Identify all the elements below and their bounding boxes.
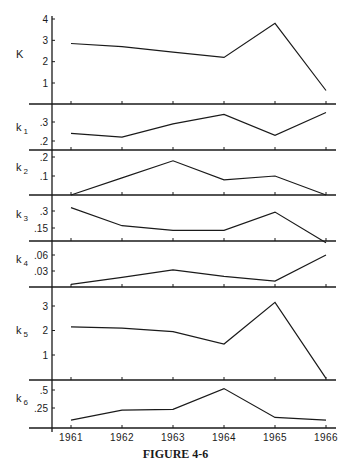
panel-K: 1234K	[16, 14, 336, 105]
x-tick-label: 1961	[59, 432, 83, 443]
y-tick-label: 4	[42, 14, 48, 25]
y-tick-label: 3	[42, 301, 48, 312]
panel-k2: .1.2k2	[16, 152, 336, 196]
y-tick-label: 1	[42, 350, 48, 361]
series-line-k1	[71, 113, 326, 138]
y-tick-label: 2	[42, 56, 48, 67]
y-tick-label: .2	[40, 152, 49, 163]
figure-caption: FIGURE 4-6	[0, 447, 351, 462]
panel-label: k5	[16, 324, 29, 339]
x-tick-label: 1966	[314, 432, 338, 443]
x-tick-label: 1962	[110, 432, 134, 443]
y-tick-label: .15	[34, 223, 48, 234]
panel-k1: .2.3k1	[16, 113, 336, 151]
panel-k3: .15.3k3	[16, 206, 336, 243]
series-line-K	[71, 23, 326, 90]
panel-label: k2	[16, 161, 29, 176]
panel-k4: .03.06k4	[16, 250, 336, 288]
panel-label: k6	[16, 392, 29, 407]
y-tick-label: .1	[40, 171, 49, 182]
series-line-k4	[71, 255, 326, 284]
y-tick-label: 1	[42, 78, 48, 89]
y-tick-label: .06	[34, 250, 48, 261]
series-line-k2	[71, 161, 326, 195]
panel-k6: .25.5k6	[16, 385, 336, 429]
panel-label: k3	[16, 208, 29, 223]
y-tick-label: .5	[40, 385, 49, 396]
y-tick-label: 2	[42, 325, 48, 336]
y-tick-label: .3	[40, 117, 49, 128]
y-tick-label: .2	[40, 136, 49, 147]
series-line-k3	[71, 208, 326, 243]
multi-panel-line-chart: 1234K.2.3k1.1.2k2.15.3k3.03.06k4123k5.25…	[0, 0, 351, 465]
y-tick-label: .03	[34, 266, 48, 277]
y-tick-label: .25	[34, 403, 48, 414]
x-tick-label: 1965	[263, 432, 287, 443]
panel-k5: 123k5	[16, 301, 336, 381]
panel-label: k1	[16, 121, 29, 136]
panel-label: K	[16, 48, 24, 60]
panel-label: k4	[16, 253, 29, 268]
y-tick-label: .3	[40, 206, 49, 217]
y-tick-label: 3	[42, 35, 48, 46]
series-line-k6	[71, 389, 326, 421]
x-tick-label: 1964	[212, 432, 236, 443]
series-line-k5	[71, 302, 326, 378]
x-tick-label: 1963	[161, 432, 185, 443]
